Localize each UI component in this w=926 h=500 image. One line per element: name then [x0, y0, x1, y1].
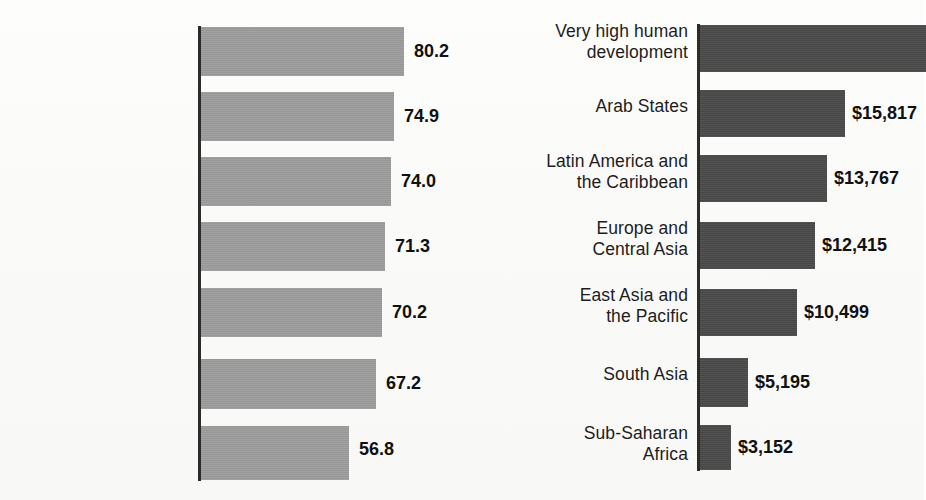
- left-row: Latin America and the Caribbean 74.9: [0, 92, 462, 141]
- left-chart-panel: Very high human development 80.2 Latin A…: [0, 0, 462, 500]
- right-row: South Asia $5,195: [462, 358, 924, 407]
- left-bar: [201, 359, 376, 409]
- left-value-label: 74.0: [401, 171, 436, 191]
- left-row: South Asia 67.2: [0, 359, 462, 409]
- left-value-label: 70.2: [392, 302, 427, 322]
- right-bar: [700, 358, 748, 407]
- right-value-label: $12,415: [822, 235, 887, 255]
- right-category-label: Arab States: [478, 96, 688, 117]
- right-value-label: $5,195: [755, 372, 810, 392]
- right-category-label: East Asia and the Pacific: [478, 285, 688, 327]
- right-bar: [700, 425, 731, 470]
- left-bar-chart: Very high human development 80.2 Latin A…: [0, 0, 462, 500]
- right-row: Arab States $15,817: [462, 90, 924, 137]
- left-bar: [201, 426, 349, 480]
- right-value-label: $10,499: [804, 302, 869, 322]
- left-row: Europe and Central Asia 71.3: [0, 222, 462, 271]
- right-category-label: Sub-Saharan Africa: [478, 423, 688, 465]
- right-bar: [700, 25, 926, 72]
- left-chart-rows: Very high human development 80.2 Latin A…: [0, 0, 462, 500]
- left-value-label: 71.3: [395, 236, 430, 256]
- left-bar: [201, 92, 394, 141]
- right-row: East Asia and the Pacific $10,499: [462, 289, 924, 336]
- left-row: Arab States 70.2: [0, 288, 462, 337]
- right-category-label: Very high human development: [478, 21, 688, 63]
- right-value-label: $3,152: [738, 437, 793, 457]
- right-bar: [700, 155, 827, 202]
- right-category-label: Latin America and the Caribbean: [478, 151, 688, 193]
- left-row: East Asia and the Pacific 74.0: [0, 157, 462, 206]
- right-chart-panel: Very high human development Arab States …: [462, 0, 924, 500]
- right-bar: [700, 222, 815, 269]
- left-value-label: 74.9: [404, 106, 439, 126]
- right-value-label: $15,817: [852, 103, 917, 123]
- right-row: Very high human development: [462, 25, 924, 72]
- left-value-label: 67.2: [386, 373, 421, 393]
- left-value-label: 56.8: [359, 439, 394, 459]
- left-bar: [201, 222, 385, 271]
- right-bar-chart: Very high human development Arab States …: [462, 0, 924, 500]
- left-row: Sub-Saharan Africa 56.8: [0, 426, 462, 480]
- right-row: Latin America and the Caribbean $13,767: [462, 155, 924, 202]
- right-bar: [700, 289, 797, 336]
- left-row: Very high human development 80.2: [0, 27, 462, 76]
- right-row: Europe and Central Asia $12,415: [462, 222, 924, 269]
- right-value-label: $13,767: [834, 168, 899, 188]
- left-bar: [201, 288, 382, 337]
- right-chart-rows: Very high human development Arab States …: [462, 0, 924, 500]
- right-bar: [700, 90, 845, 137]
- left-value-label: 80.2: [414, 41, 449, 61]
- right-category-label: Europe and Central Asia: [478, 218, 688, 260]
- left-bar: [201, 157, 391, 206]
- right-row: Sub-Saharan Africa $3,152: [462, 425, 924, 470]
- left-bar: [201, 27, 404, 76]
- right-category-label: South Asia: [478, 364, 688, 385]
